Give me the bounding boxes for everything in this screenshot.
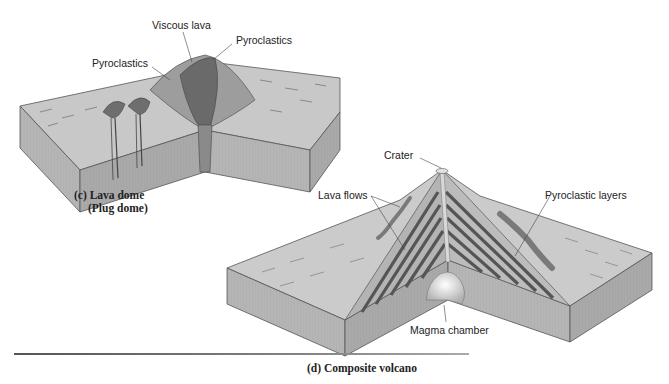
caption-lava-dome-line1: (c) Lava dome [74, 189, 148, 202]
bottom-rule [14, 353, 469, 355]
label-pyroclastic-layers: Pyroclastic layers [545, 190, 627, 201]
label-viscous-lava: Viscous lava [152, 20, 211, 31]
label-magma-chamber: Magma chamber [410, 325, 489, 336]
lava-dome-block [20, 55, 340, 212]
caption-lava-dome: (c) Lava dome (Plug dome) [74, 189, 148, 215]
label-pyroclastics-left: Pyroclastics [92, 58, 148, 69]
caption-composite-volcano: (d) Composite volcano [307, 362, 417, 375]
label-lava-flows: Lava flows [318, 190, 368, 201]
label-pyroclastics-right: Pyroclastics [236, 35, 292, 46]
volcano-figure: Viscous lava Pyroclastics Pyroclastics (… [0, 0, 669, 384]
label-crater: Crater [384, 150, 413, 161]
caption-lava-dome-line2: (Plug dome) [74, 202, 148, 215]
